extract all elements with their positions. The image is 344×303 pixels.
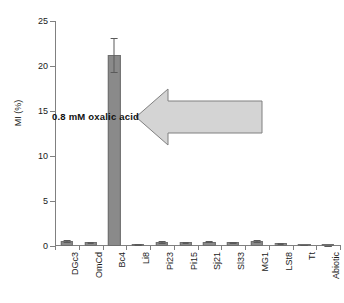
x-tick-label-Tt: Tt xyxy=(308,252,317,303)
bar-group-DGc3 xyxy=(55,21,79,246)
x-tick-4 xyxy=(150,245,151,250)
error-cap-MG1-lower xyxy=(253,242,260,243)
x-tick-label-Pi23: Pi23 xyxy=(166,252,175,303)
arrow-annotation-label: 0.8 mM oxalic acid xyxy=(33,111,158,122)
x-tick-label-Bc4: Bc4 xyxy=(118,252,127,303)
bar-group-OmCd xyxy=(79,21,103,246)
y-tick-label-5: 5 xyxy=(8,197,48,206)
y-tick-label-10: 10 xyxy=(8,152,48,161)
x-tick-label-Li8: Li8 xyxy=(142,252,151,303)
x-tick-label-OmCd: OmCd xyxy=(95,252,104,303)
x-tick-label-Abiotic: Abiotic xyxy=(332,252,341,303)
bar-group-Tt xyxy=(293,21,317,246)
x-tick-11 xyxy=(316,245,317,250)
x-tick-label-DGc3: DGc3 xyxy=(71,252,80,303)
bar-group-Bc4 xyxy=(103,21,127,246)
x-tick-8 xyxy=(245,245,246,250)
error-cap-Bc4-upper xyxy=(111,38,118,39)
x-tick-1 xyxy=(79,245,80,250)
error-cap-Pi15-lower xyxy=(182,243,189,244)
x-tick-6 xyxy=(198,245,199,250)
error-cap-Sl33-lower xyxy=(230,243,237,244)
x-tick-0 xyxy=(55,245,56,250)
x-tick-3 xyxy=(126,245,127,250)
x-tick-label-Sl33: Sl33 xyxy=(237,252,246,303)
error-cap-DGc3-lower xyxy=(63,242,70,243)
error-cap-OmCd-lower xyxy=(87,243,94,244)
x-tick-label-MG1: MG1 xyxy=(261,252,270,303)
y-tick-label-25: 25 xyxy=(8,17,48,26)
y-tick-label-20: 20 xyxy=(8,62,48,71)
error-cap-MG1-upper xyxy=(253,240,260,241)
error-cap-Sj21-lower xyxy=(206,242,213,243)
y-tick-label-0: 0 xyxy=(8,242,48,251)
error-cap-Tt-lower xyxy=(301,245,308,246)
x-tick-12 xyxy=(340,245,341,250)
error-cap-Bc4-lower xyxy=(111,72,118,73)
x-tick-label-Pi15: Pi15 xyxy=(190,252,199,303)
error-bar-Bc4 xyxy=(114,38,115,72)
chart-figure: MI (%) 0510152025 DGc3OmCdBc4Li8Pi23Pi15… xyxy=(0,0,344,303)
error-cap-Abiotic-lower xyxy=(325,246,332,247)
x-tick-2 xyxy=(103,245,104,250)
x-tick-label-LSt8: LSt8 xyxy=(285,252,294,303)
x-tick-7 xyxy=(221,245,222,250)
bar-group-Abiotic xyxy=(316,21,340,246)
x-tick-5 xyxy=(174,245,175,250)
error-cap-Pi23-lower xyxy=(158,243,165,244)
x-tick-10 xyxy=(293,245,294,250)
error-cap-LSt8-lower xyxy=(277,244,284,245)
error-cap-Li8-lower xyxy=(135,245,142,246)
bar-group-LSt8 xyxy=(269,21,293,246)
bar-Bc4 xyxy=(108,55,120,246)
error-cap-DGc3-upper xyxy=(63,240,70,241)
x-tick-9 xyxy=(269,245,270,250)
x-tick-label-Sj21: Sj21 xyxy=(213,252,222,303)
